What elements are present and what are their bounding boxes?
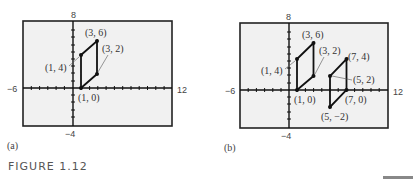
ymax-label-a: 8: [71, 10, 76, 20]
label-5-neg2-b: (5, −2): [321, 111, 348, 123]
label-3-6-b: (3, 6): [302, 29, 324, 41]
label-3-6-a: (3, 6): [85, 27, 107, 39]
label-7-0-b: (7, 0): [345, 94, 367, 106]
ymin-label-a: −4: [65, 129, 75, 139]
label-5-2-b: (5, 2): [353, 74, 375, 86]
ymin-label-b: −4: [281, 131, 291, 141]
label-1-0-b: (1, 0): [294, 94, 316, 106]
label-1-0-a: (1, 0): [78, 92, 100, 104]
label-3-2-a: (3, 2): [102, 43, 124, 55]
xmin-label-b: −6: [225, 86, 235, 96]
label-7-4-b: (7, 4): [348, 51, 370, 63]
figure-title: FIGURE 1.12: [8, 160, 88, 173]
ymax-label-b: 8: [286, 12, 291, 22]
figure-canvas: (3, 6) (3, 2) (1, 4) (1, 0) 8 −4 −6 12: [0, 0, 413, 181]
label-3-2-b: (3, 2): [319, 45, 341, 57]
panel-b: (3, 6) (3, 2) (1, 4) (1, 0) (7, 4) (5, 2…: [225, 12, 403, 141]
panel-a-caption: (a): [7, 140, 18, 151]
decorative-rule: [383, 176, 413, 179]
panel-b-caption: (b): [224, 142, 236, 153]
panel-a: (3, 6) (3, 2) (1, 4) (1, 0) 8 −4 −6 12: [7, 10, 187, 139]
xmax-label-b: 12: [393, 87, 403, 97]
xmin-label-a: −6: [7, 84, 17, 94]
xmax-label-a: 12: [177, 85, 187, 95]
label-1-4-b: (1, 4): [261, 65, 283, 77]
label-1-4-a: (1, 4): [45, 62, 67, 74]
